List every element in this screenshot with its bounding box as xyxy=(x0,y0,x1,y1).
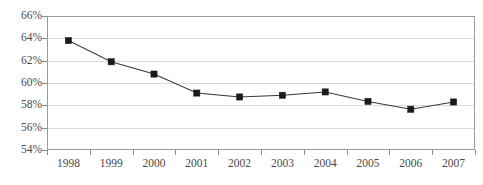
gridline xyxy=(48,61,474,62)
x-axis-tick-mark xyxy=(175,150,176,155)
x-axis-tick-label: 2007 xyxy=(429,158,479,170)
x-axis-labels: 1998199920002001200220032004200520062007 xyxy=(0,158,483,178)
gridline xyxy=(48,38,474,39)
y-axis-tick-label: 56% xyxy=(0,122,42,134)
x-axis-tick-mark xyxy=(218,150,219,155)
gridline xyxy=(48,105,474,106)
x-axis-tick-mark xyxy=(261,150,262,155)
x-axis-tick-mark xyxy=(133,150,134,155)
plot-area xyxy=(47,16,475,150)
x-axis-tick-mark xyxy=(432,150,433,155)
y-axis-tick-label: 54% xyxy=(0,144,42,156)
y-axis-tick-label: 66% xyxy=(0,10,42,22)
gridline xyxy=(48,128,474,129)
line-chart: 54%56%58%60%62%64%66% 199819992000200120… xyxy=(0,0,483,185)
y-axis-tick-label: 62% xyxy=(0,55,42,67)
x-axis-tick-mark xyxy=(47,150,48,155)
x-axis-tick-mark xyxy=(347,150,348,155)
x-axis-tick-mark xyxy=(389,150,390,155)
y-axis-tick-label: 60% xyxy=(0,77,42,89)
x-axis-tick-mark xyxy=(304,150,305,155)
gridline xyxy=(48,83,474,84)
x-axis-tick-mark xyxy=(475,150,476,155)
x-axis-tick-mark xyxy=(90,150,91,155)
y-axis-tick-label: 58% xyxy=(0,99,42,111)
y-axis-tick-label: 64% xyxy=(0,32,42,44)
